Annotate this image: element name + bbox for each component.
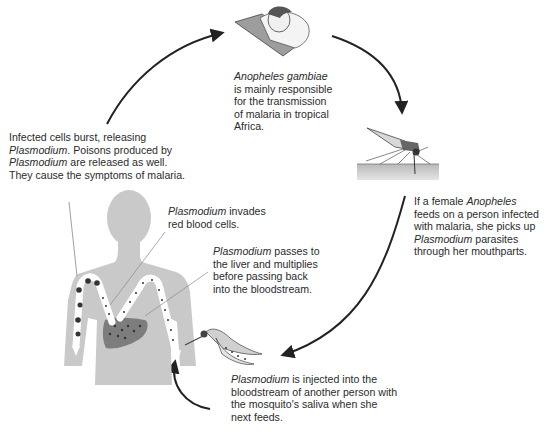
arrow-top-to-mosquito-icon (332, 36, 402, 112)
leader-line-burst (69, 202, 77, 276)
caption-left: Infected cells burst, releasing Plasmodi… (9, 131, 185, 181)
caption-top-species: Anopheles gambiae (234, 70, 328, 82)
mosquito-on-skin-icon (357, 128, 439, 180)
arrow-left-to-top-icon (107, 33, 222, 124)
mosquito-injecting-icon (185, 329, 262, 364)
caption-bottom: Plasmodium is injected into the bloodstr… (231, 373, 397, 423)
sleeping-person-icon (235, 7, 309, 56)
caption-invades: Plasmodium invades red blood cells. (168, 205, 266, 230)
caption-right: If a female Anopheles feeds on a person … (414, 195, 539, 258)
caption-top: Anopheles gambiae is mainly responsible … (234, 70, 332, 133)
arrow-injection-to-body-icon (174, 362, 210, 409)
caption-liver: Plasmodium passes to the liver and multi… (213, 245, 320, 295)
